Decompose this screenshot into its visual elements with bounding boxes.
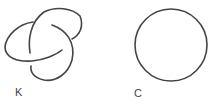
- knot-label: K: [15, 86, 22, 98]
- circle-label: C: [134, 87, 142, 99]
- unknot-circle: [135, 9, 207, 81]
- diagram-canvas: K C: [0, 0, 210, 108]
- trefoil-knot: [5, 9, 82, 81]
- diagram-svg: [0, 0, 210, 108]
